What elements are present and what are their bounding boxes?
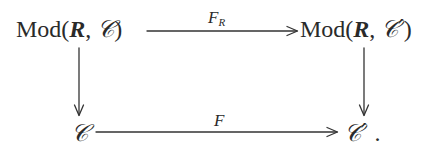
node-mod-r-c-prime: Mod(R, 𝒞′) — [300, 17, 412, 41]
category-c-prime: 𝒞′ — [344, 119, 366, 147]
comma: , — [85, 16, 97, 42]
bottom-arrow-label: F — [214, 112, 224, 129]
close-paren: ) — [404, 16, 412, 42]
category-c-prime: 𝒞′ — [381, 15, 403, 43]
ring-r: R — [353, 16, 369, 42]
comma: , — [369, 16, 381, 42]
mod-prefix: Mod( — [300, 16, 353, 42]
subscript-r: R — [218, 16, 225, 28]
top-arrow-label: FR — [208, 9, 225, 28]
node-c: 𝒞 — [71, 121, 88, 145]
functor-f: F — [214, 111, 224, 130]
category-c: 𝒞 — [71, 119, 88, 147]
mod-prefix: Mod( — [16, 16, 69, 42]
functor-f: F — [208, 8, 218, 27]
node-c-prime: 𝒞′. — [344, 121, 380, 145]
right-vertical-arrow — [360, 48, 369, 116]
period: . — [374, 120, 380, 146]
ring-r: R — [69, 16, 85, 42]
category-c: 𝒞 — [97, 15, 114, 43]
close-paren: ) — [114, 16, 122, 42]
node-mod-r-c: Mod(R, 𝒞) — [16, 17, 122, 41]
left-vertical-arrow — [75, 48, 84, 116]
